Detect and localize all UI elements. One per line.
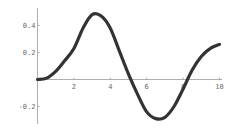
- line-chart: 246810 0.40.2-0.2: [0, 0, 237, 133]
- x-tick-label: 2: [72, 83, 76, 91]
- x-tick-label: 4: [108, 83, 112, 91]
- y-tick-label: 0.2: [23, 49, 36, 57]
- x-tick-label: 10: [215, 83, 223, 91]
- x-tick-label: 6: [145, 83, 149, 91]
- y-tick-label: 0.4: [23, 22, 36, 30]
- y-ticks: 0.40.2-0.2: [19, 22, 40, 111]
- y-tick-label: -0.2: [19, 103, 36, 111]
- data-curve: [38, 14, 220, 120]
